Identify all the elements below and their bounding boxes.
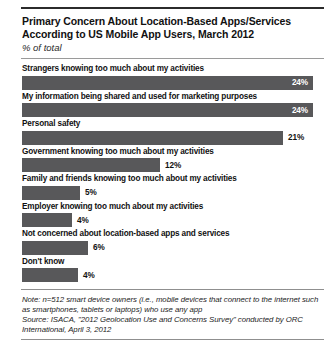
bar-track: 4%: [22, 213, 325, 227]
bar-row: My information being shared and used for…: [22, 92, 325, 118]
bar-value-label: 6%: [88, 243, 105, 252]
bar-category-label: Family and friends knowing too much abou…: [22, 174, 325, 184]
bar-category-label: Personal safety: [22, 119, 325, 129]
bar-value-label: 24%: [292, 78, 313, 87]
bar-value-label: 24%: [292, 106, 313, 115]
bar-category-label: Strangers knowing too much about my acti…: [22, 64, 325, 74]
bar-track: 24%: [22, 103, 325, 117]
bar-track: 6%: [22, 241, 325, 255]
footnote-source: Source: ISACA, "2012 Geolocation Use and…: [22, 315, 322, 335]
bar-track: 5%: [22, 186, 325, 200]
bar-fill: [22, 131, 283, 145]
bar-chart: Strangers knowing too much about my acti…: [22, 64, 325, 282]
bar-fill: [22, 186, 80, 200]
bottom-divider: [21, 339, 324, 340]
bar-row: Family and friends knowing too much abou…: [22, 174, 325, 200]
bar-category-label: Don't know: [22, 257, 325, 267]
bar-fill: [22, 241, 88, 255]
bar-track: 12%: [22, 158, 325, 172]
bar-value-label: 4%: [78, 271, 95, 280]
bar-track: 4%: [22, 268, 325, 282]
bar-fill: [22, 268, 78, 282]
bar-category-label: Not concerned about location-based apps …: [22, 229, 325, 239]
bar-row: Don't know 4%: [22, 257, 325, 283]
bar-value-label: 4%: [72, 216, 89, 225]
bar-value-label: 21%: [283, 133, 304, 142]
bar-fill: [22, 158, 160, 172]
chart-sheet: Primary Concern About Location-Based App…: [0, 7, 334, 364]
chart-subtitle: % of total: [22, 42, 322, 54]
bar-value-label: 5%: [80, 188, 97, 197]
bar-category-label: Employer knowing too much about my activ…: [22, 202, 325, 212]
header-divider: [21, 58, 324, 59]
bar-fill: 24%: [22, 103, 313, 117]
bar-row: Not concerned about location-based apps …: [22, 229, 325, 255]
bar-category-label: Government knowing too much about my act…: [22, 147, 325, 157]
chart-header: Primary Concern About Location-Based App…: [22, 15, 322, 54]
bar-value-label: 12%: [160, 161, 181, 170]
bar-track: 24%: [22, 76, 325, 90]
chart-title-line-1: Primary Concern About Location-Based App…: [22, 15, 322, 28]
bar-row: Personal safety 21%: [22, 119, 325, 145]
footnote-note: Note: n=512 smart device owners (i.e., m…: [22, 295, 322, 315]
bar-row: Government knowing too much about my act…: [22, 147, 325, 173]
bar-category-label: My information being shared and used for…: [22, 92, 325, 102]
bar-row: Employer knowing too much about my activ…: [22, 202, 325, 228]
bar-fill: 24%: [22, 76, 313, 90]
top-divider: [21, 7, 324, 9]
bar-row: Strangers knowing too much about my acti…: [22, 64, 325, 90]
bar-track: 21%: [22, 131, 325, 145]
chart-title-line-2: According to US Mobile App Users, March …: [22, 28, 322, 41]
bar-fill: [22, 213, 72, 227]
footnote-divider: [21, 289, 324, 290]
